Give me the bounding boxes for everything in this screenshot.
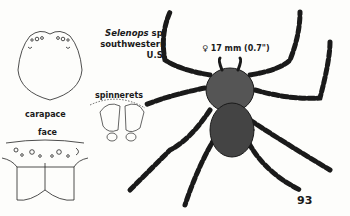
size-text: 17 mm (0.7") [211,44,270,53]
female-symbol-icon: ♀ [202,44,208,53]
illustration-canvas [0,0,350,216]
carapace-drawing [18,31,82,100]
spinnerets-drawing [90,99,145,141]
genus-name: Selenops [105,28,149,38]
face-drawing [2,140,88,200]
face-label: face [38,128,57,137]
spinnerets-label: spinnerets [95,91,143,100]
species-region: southwestern U.S. [96,39,166,61]
carapace-label: carapace [25,110,66,119]
genus-suffix: sp. [149,28,166,38]
page-number: 93 [297,194,312,207]
size-caption: ♀ 17 mm (0.7") [202,44,270,53]
species-caption: Selenops sp. southwestern U.S. [96,28,166,61]
